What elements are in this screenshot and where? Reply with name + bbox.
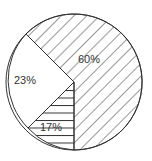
label-60: 60% [78, 53, 100, 65]
label-17: 17% [40, 121, 62, 133]
pie-chart: 60% 23% 17% [0, 0, 152, 161]
label-23: 23% [14, 74, 36, 86]
